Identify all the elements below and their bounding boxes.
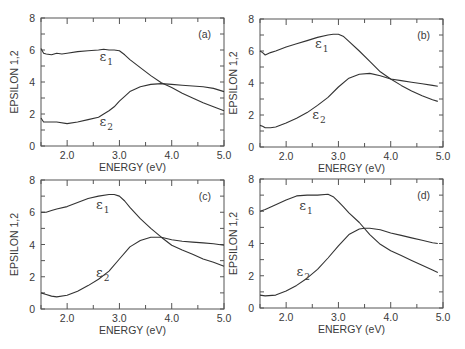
y-tick-label: 8 — [248, 13, 254, 25]
x-tick-label: 4.0 — [164, 312, 179, 324]
y-tick-label: 0 — [29, 140, 35, 152]
x-tick-label: 2.0 — [60, 312, 75, 324]
y-axis-label: EPSILON 1,2 — [8, 213, 20, 276]
y-tick-label: 4 — [29, 76, 35, 88]
y-tick-label: 8 — [248, 173, 254, 185]
x-tick-label: 4.0 — [383, 150, 398, 162]
x-axis-label: ENERGY (eV) — [318, 323, 385, 335]
y-tick-label: 6 — [248, 205, 254, 217]
y-tick-label: 6 — [29, 206, 35, 218]
y-axis-label: EPSILON 1,2 — [8, 50, 20, 113]
panel-c: 2.03.04.05.002468ENERGY (eV)EPSILON 1,2(… — [8, 174, 231, 336]
epsilon1-curve — [260, 194, 438, 272]
x-tick-label: 2.0 — [279, 311, 294, 323]
y-tick-label: 2 — [248, 270, 254, 282]
plot-frame — [260, 179, 443, 308]
x-tick-label: 5.0 — [436, 311, 451, 323]
plot-frame — [41, 18, 224, 146]
epsilon2-curve — [260, 228, 438, 296]
epsilon2-curve — [260, 73, 438, 127]
y-tick-label: 4 — [29, 239, 35, 251]
x-tick-label: 5.0 — [217, 312, 232, 324]
panel-tag: (c) — [199, 190, 211, 202]
x-axis-label: ENERGY (eV) — [99, 161, 166, 173]
epsilon1-curve — [41, 195, 224, 267]
x-tick-label: 3.0 — [112, 312, 127, 324]
panel-a: 2.03.04.05.002468ENERGY (eV)EPSILON 1,2(… — [8, 12, 231, 173]
epsilon1-label: ε1 — [315, 36, 328, 54]
x-tick-label: 2.0 — [279, 150, 294, 162]
x-tick-label: 2.0 — [60, 149, 75, 161]
epsilon2-curve — [41, 237, 224, 297]
epsilon2-curve — [41, 84, 224, 124]
epsilon1-curve — [41, 48, 224, 110]
x-axis-label: ENERGY (eV) — [99, 324, 166, 336]
epsilon1-label: ε1 — [299, 198, 312, 216]
panel-tag: (d) — [417, 189, 430, 201]
panel-d: 2.03.04.05.002468ENERGY (eV)EPSILON 1,2(… — [227, 173, 450, 335]
x-tick-label: 3.0 — [112, 149, 127, 161]
y-tick-label: 8 — [29, 174, 35, 186]
y-tick-label: 4 — [248, 77, 254, 89]
panel-tag: (b) — [417, 29, 430, 41]
x-tick-label: 5.0 — [436, 150, 451, 162]
epsilon1-label: ε1 — [96, 197, 109, 215]
epsilon1-label: ε1 — [100, 49, 113, 67]
x-tick-label: 3.0 — [331, 150, 346, 162]
y-tick-label: 6 — [29, 44, 35, 56]
y-tick-label: 2 — [29, 271, 35, 283]
y-tick-label: 4 — [248, 238, 254, 250]
x-tick-label: 3.0 — [331, 311, 346, 323]
epsilon1-curve — [260, 34, 438, 101]
epsilon2-label: ε2 — [100, 114, 113, 132]
x-axis-label: ENERGY (eV) — [318, 162, 385, 174]
x-tick-label: 4.0 — [164, 149, 179, 161]
y-tick-label: 8 — [29, 12, 35, 24]
y-tick-label: 0 — [29, 303, 35, 315]
y-tick-label: 2 — [29, 108, 35, 120]
y-axis-label: EPSILON 1,2 — [227, 212, 239, 275]
plot-frame — [41, 180, 224, 309]
panel-b: 2.03.04.05.002468ENERGY (eV)EPSILON 1,2(… — [227, 13, 450, 174]
epsilon2-label: ε2 — [297, 264, 310, 282]
y-tick-label: 2 — [248, 109, 254, 121]
x-tick-label: 5.0 — [217, 149, 232, 161]
y-tick-label: 0 — [248, 302, 254, 314]
y-tick-label: 6 — [248, 45, 254, 57]
panel-tag: (a) — [198, 28, 211, 40]
x-tick-label: 4.0 — [383, 311, 398, 323]
figure-2x2-dielectric-function: 2.03.04.05.002468ENERGY (eV)EPSILON 1,2(… — [0, 0, 465, 349]
epsilon2-label: ε2 — [312, 107, 325, 125]
y-tick-label: 0 — [248, 141, 254, 153]
y-axis-label: EPSILON 1,2 — [227, 51, 239, 114]
